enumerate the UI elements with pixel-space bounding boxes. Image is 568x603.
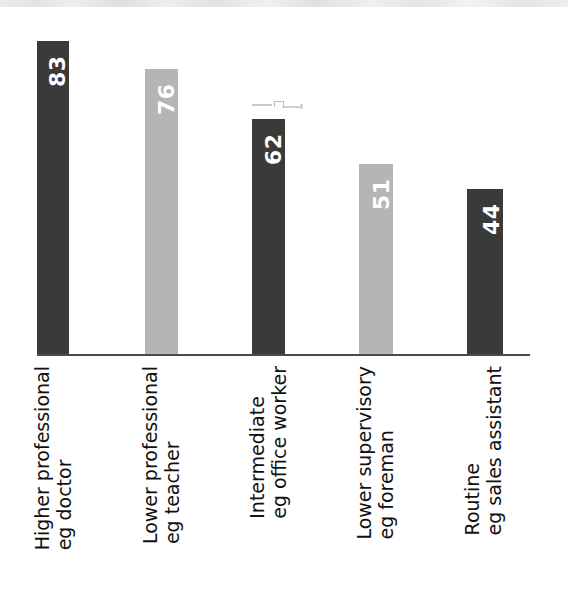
scan-artifact-icon [274, 101, 284, 107]
bar-routine[interactable]: 44 [467, 189, 503, 356]
bar-value-label: 62 [252, 126, 285, 172]
bar-higher-professional[interactable]: 83 [37, 41, 69, 356]
x-axis-baseline [37, 354, 530, 356]
category-label-higher-professional: Higher professional eg doctor [31, 366, 76, 550]
category-label-lower-professional: Lower professional eg teacher [139, 366, 184, 544]
bar-value-label: 83 [37, 48, 69, 94]
plot-area: 83 76 62 51 44 [0, 0, 568, 360]
bar-value-label: 44 [467, 196, 503, 242]
bar-value-label: 51 [359, 171, 393, 217]
category-label-intermediate: Intermediate eg office worker [246, 366, 291, 519]
category-label-routine: Routine eg sales assistant [461, 366, 506, 535]
bar-value-label: 76 [145, 76, 178, 122]
scan-artifact-icon [252, 104, 272, 106]
bar-chart: 83 76 62 51 44 Higher professional eg do… [0, 0, 568, 603]
category-axis-labels: Higher professional eg doctor Lower prof… [0, 360, 568, 603]
category-label-lower-supervisory: Lower supervisory eg foreman [353, 366, 398, 540]
bar-lower-professional[interactable]: 76 [145, 69, 178, 356]
scan-artifact-icon [282, 106, 300, 108]
bar-lower-supervisory[interactable]: 51 [359, 164, 393, 356]
scan-artifact-icon [300, 104, 303, 109]
bar-intermediate[interactable]: 62 [252, 119, 285, 356]
